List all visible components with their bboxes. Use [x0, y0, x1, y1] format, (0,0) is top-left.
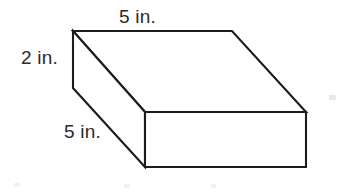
dimension-label-top-edge: 5 in.: [119, 7, 156, 26]
scan-artifact-speck: [124, 184, 130, 188]
scan-artifact-speck: [211, 184, 216, 188]
scan-artifact-speck: [14, 183, 20, 187]
prism-front-face: [145, 112, 306, 167]
dimension-label-height: 2 in.: [21, 48, 58, 67]
scan-artifact-speck: [329, 95, 336, 100]
rectangular-prism-drawing: [0, 0, 341, 194]
figure-container: 5 in. 2 in. 5 in.: [0, 0, 341, 194]
dimension-label-depth-edge: 5 in.: [64, 122, 101, 141]
